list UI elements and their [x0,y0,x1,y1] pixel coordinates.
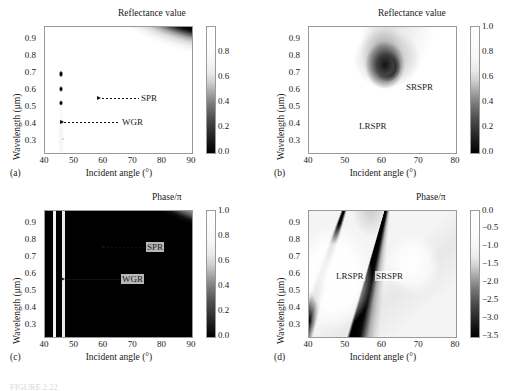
panel-c-ctick: 0.0 [218,330,229,340]
panel-c-wgr-leader [66,279,120,280]
panel-c-ytick: 0.6 [12,268,36,278]
panel-b-annotation-srspr: SRSPR [405,82,434,92]
panel-c-colorbar-title: Phase/π [152,192,182,202]
panel-b-xtick: 40 [296,155,320,165]
panel-c-xtick: 50 [61,339,85,349]
panel-c-colorbar [206,210,216,338]
panel-b-ctick: 0.4 [482,96,493,106]
panel-d-ctick: −2.0 [482,276,498,286]
panel-c-ytick: 0.4 [12,302,36,312]
panel-b-ytick: 0.5 [276,101,300,111]
panel-c-ytick: 0.9 [12,217,36,227]
panel-a-ytick: 0.7 [12,67,36,77]
panel-b-label: (b) [274,168,285,178]
panel-a-plot-area: SPR WGR [44,26,193,154]
panel-a-spr-arrowhead [97,96,101,100]
panel-b-ytick: 0.4 [276,118,300,128]
panel-c-x-axis-title: Incident angle (°) [66,352,172,362]
panel-b-xtick: 80 [443,155,467,165]
panel-a-wgr-leader [64,122,120,123]
panel-d-ytick: 0.9 [276,217,300,227]
panel-a-spr-leader [102,98,139,99]
panel-c-ytick: 0.7 [12,251,36,261]
panel-c-xtick: 40 [32,339,56,349]
panel-c-annotation-spr: SPR [146,242,164,252]
panel-a-xtick: 40 [32,155,56,165]
panel-b-annotation-lrspr: LRSPR [358,121,388,131]
panel-a-xtick: 60 [91,155,115,165]
panel-a-wgr-arrowhead [60,120,64,124]
panel-a-annotation-spr: SPR [140,93,158,103]
panel-c-plot-area: SPR WGR [44,210,193,338]
panel-b-xtick: 60 [370,155,394,165]
panel-b-ytick: 0.9 [276,33,300,43]
panel-b-colorbar-title: Reflectance value [378,8,446,18]
panel-a-xtick: 70 [120,155,144,165]
panel-a-ytick: 0.9 [12,33,36,43]
panel-d-ctick: −0.5 [482,222,498,232]
panel-b-x-axis-title: Incident angle (°) [330,168,436,178]
panel-d-ytick: 0.4 [276,302,300,312]
panel-b-ctick: 0.2 [482,121,493,131]
panel-c-xtick: 70 [120,339,144,349]
panel-d-ytick: 0.6 [276,268,300,278]
panel-c-ytick: 0.8 [12,234,36,244]
panel-c-ctick: 0.6 [218,255,229,265]
panel-d-colorbar [470,210,480,338]
panel-a-xtick: 50 [61,155,85,165]
figure-caption: FIGURE 2.22 [10,382,58,391]
panel-d-xtick: 60 [370,339,394,349]
panel-d-annotation-srspr: SRSPR [375,271,404,281]
panel-a-heatmap-field [45,27,192,153]
panel-d-ctick: −2.5 [482,294,498,304]
panel-b-ytick: 0.7 [276,67,300,77]
panel-a-ctick: 0.0 [218,146,229,156]
panel-d-ytick: 0.8 [276,234,300,244]
panel-a-label: (a) [10,168,21,178]
panel-d-colorbar-title: Phase/π [416,192,446,202]
panel-d-ctick: −1.5 [482,258,498,268]
panel-d-xtick: 40 [296,339,320,349]
panel-a-annotation-wgr: WGR [121,117,144,127]
panel-a-x-axis-title: Incident angle (°) [66,168,172,178]
panel-d-ytick: 0.7 [276,251,300,261]
panel-a-ytick: 0.6 [12,84,36,94]
panel-c-ctick: 1.0 [218,205,229,215]
panel-d-xtick: 70 [406,339,430,349]
panel-d-x-axis-title: Incident angle (°) [330,352,436,362]
panel-b-ytick: 0.8 [276,50,300,60]
panel-b-ytick: 0.3 [276,135,300,145]
panel-b-xtick: 70 [406,155,430,165]
panel-a-xtick: 90 [179,155,203,165]
panel-c-xtick: 60 [91,339,115,349]
panel-c-wgr-arrowhead [61,277,65,281]
panel-a-ctick: 0.4 [218,96,229,106]
panel-b-plot-area: SRSPR LRSPR [308,26,457,154]
panel-b-colorbar [470,26,480,154]
panel-c-ctick: 0.8 [218,230,229,240]
panel-c-ctick: 0.2 [218,305,229,315]
panel-b-ctick: 1.0 [482,21,493,31]
panel-a-ytick: 0.5 [12,101,36,111]
panel-c-ctick: 0.4 [218,280,229,290]
panel-a-colorbar [206,26,216,154]
panel-b-ctick: 0.0 [482,146,493,156]
panel-d-plot-area: LRSPR SRSPR [308,210,457,338]
panel-a-colorbar-title: Reflectance value [118,8,186,18]
panel-c-label: (c) [10,352,21,362]
panel-c-heatmap-field [45,211,192,337]
panel-a-ctick: 0.8 [218,46,229,56]
panel-b-xtick: 50 [333,155,357,165]
panel-d-ctick: 0.0 [482,205,493,215]
figure-container: Reflectance value Wavelength (μm) 0.9 0.… [0,0,529,391]
panel-c-xtick: 90 [179,339,203,349]
panel-c-ytick: 0.5 [12,285,36,295]
panel-a-ctick: 0.2 [218,121,229,131]
panel-d-xtick: 50 [333,339,357,349]
panel-c-annotation-wgr: WGR [121,274,144,284]
panel-b-ctick: 0.8 [482,46,493,56]
panel-c-spr-leader [107,247,145,248]
panel-c-spr-arrowhead [102,245,106,249]
panel-d-xtick: 80 [443,339,467,349]
panel-d-ytick: 0.3 [276,319,300,329]
